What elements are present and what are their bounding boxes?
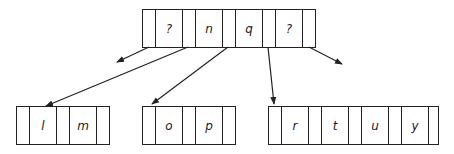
root-pointer-2 bbox=[223, 10, 236, 47]
root-pointer-1 bbox=[183, 10, 196, 47]
middle-pointer-0 bbox=[143, 107, 156, 144]
left-pointer-1 bbox=[57, 107, 70, 144]
child-node-right: r t u y bbox=[268, 106, 439, 145]
right-key-2: u bbox=[362, 107, 389, 144]
left-pointer-2 bbox=[97, 107, 109, 144]
left-pointer-0 bbox=[17, 107, 30, 144]
arrow-to-right-child bbox=[268, 47, 274, 104]
middle-pointer-2 bbox=[223, 107, 235, 144]
right-key-0: r bbox=[282, 107, 309, 144]
root-pointer-0 bbox=[143, 10, 156, 47]
child-node-left: l m bbox=[16, 106, 110, 145]
right-pointer-0 bbox=[269, 107, 282, 144]
child-node-middle: o p bbox=[142, 106, 236, 145]
root-key-1: n bbox=[196, 10, 223, 47]
arrow-to-left-child bbox=[46, 47, 188, 106]
right-key-3: y bbox=[402, 107, 429, 144]
left-key-1: m bbox=[70, 107, 97, 144]
middle-key-1: p bbox=[196, 107, 223, 144]
right-pointer-2 bbox=[349, 107, 362, 144]
root-key-2: q bbox=[236, 10, 263, 47]
left-key-0: l bbox=[30, 107, 57, 144]
right-pointer-4 bbox=[429, 107, 438, 144]
arrow-offscreen-right bbox=[309, 47, 342, 64]
arrow-offscreen-left bbox=[117, 47, 149, 62]
right-pointer-1 bbox=[309, 107, 322, 144]
root-key-0: ? bbox=[156, 10, 183, 47]
root-node: ? n q ? bbox=[142, 9, 316, 48]
right-pointer-3 bbox=[389, 107, 402, 144]
arrow-to-middle-child bbox=[152, 47, 228, 104]
root-pointer-3 bbox=[263, 10, 276, 47]
right-key-1: t bbox=[322, 107, 349, 144]
root-key-3: ? bbox=[276, 10, 303, 47]
middle-pointer-1 bbox=[183, 107, 196, 144]
root-pointer-4 bbox=[303, 10, 315, 47]
middle-key-0: o bbox=[156, 107, 183, 144]
